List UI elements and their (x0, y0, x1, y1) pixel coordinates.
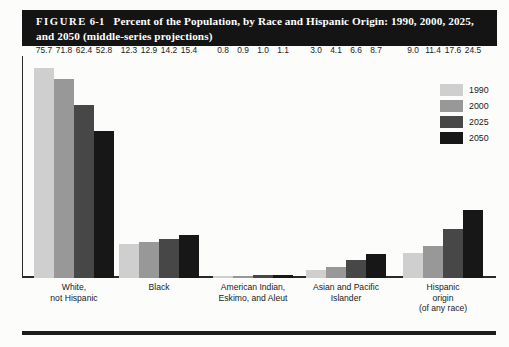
bar-2025-3[interactable]: 6.6 (346, 56, 366, 278)
bar-rect: 8.7 (366, 254, 386, 278)
bar-2050-1[interactable]: 15.4 (179, 56, 199, 278)
bar-rect: 9.0 (403, 253, 423, 278)
bar-value-label: 71.8 (56, 45, 72, 55)
bar-rect: 14.2 (159, 239, 179, 278)
bar-value-label: 9.0 (407, 45, 419, 55)
bar-rect: 17.6 (443, 229, 463, 278)
bar-rect: 6.6 (346, 260, 366, 278)
legend-swatch-2050 (440, 132, 463, 144)
chart-legend: 1990200020252050 (440, 82, 489, 146)
bar-value-label: 4.1 (330, 45, 342, 55)
figure-number: 6-1 (90, 16, 105, 27)
bar-2025-2[interactable]: 1.0 (253, 56, 273, 278)
legend-item-2050[interactable]: 2050 (440, 130, 489, 145)
bar-2025-1[interactable]: 14.2 (159, 56, 179, 278)
bar-group-3: 3.04.16.68.7 (306, 56, 386, 278)
category-label-line: Asian and Pacific (291, 282, 401, 293)
bar-value-label: 1.1 (277, 45, 289, 55)
bar-group-0: 75.771.862.452.8 (34, 56, 114, 278)
bar-2050-2[interactable]: 1.1 (273, 56, 293, 278)
bar-value-label: 12.9 (141, 45, 157, 55)
bar-rect: 0.8 (213, 276, 233, 278)
bar-2000-0[interactable]: 71.8 (54, 56, 74, 278)
bar-rect: 12.9 (139, 242, 159, 278)
legend-swatch-2025 (440, 116, 463, 128)
legend-item-1990[interactable]: 1990 (440, 82, 489, 97)
legend-swatch-1990 (440, 84, 463, 96)
bar-value-label: 75.7 (36, 45, 52, 55)
bar-rect: 1.1 (273, 275, 293, 278)
bar-value-label: 3.0 (310, 45, 322, 55)
bar-rect: 62.4 (74, 105, 94, 278)
bar-group-1: 12.312.914.215.4 (119, 56, 199, 278)
bar-value-label: 24.5 (465, 45, 481, 55)
legend-label-1990: 1990 (469, 85, 489, 95)
figure-bottom-rule (22, 331, 496, 335)
category-label-line: Islander (291, 293, 401, 304)
bar-2025-0[interactable]: 62.4 (74, 56, 94, 278)
bar-value-label: 14.2 (161, 45, 177, 55)
bar-1990-1[interactable]: 12.3 (119, 56, 139, 278)
plot-area: 75.771.862.452.812.312.914.215.40.80.91.… (22, 56, 497, 278)
bar-rect: 3.0 (306, 270, 326, 278)
category-label-3: Asian and PacificIslander (291, 282, 401, 303)
bar-1990-3[interactable]: 3.0 (306, 56, 326, 278)
bar-rect: 15.4 (179, 235, 199, 278)
bar-value-label: 52.8 (96, 45, 112, 55)
bar-1990-2[interactable]: 0.8 (213, 56, 233, 278)
bar-group-2: 0.80.91.01.1 (213, 56, 293, 278)
bar-rect: 11.4 (423, 246, 443, 278)
bar-value-label: 8.7 (370, 45, 382, 55)
category-label-line: Hispanic (388, 282, 498, 293)
bar-rect: 71.8 (54, 79, 74, 278)
bar-rect: 24.5 (463, 210, 483, 278)
figure-container: FIGURE 6-1Percent of the Population, by … (0, 0, 509, 347)
bar-value-label: 0.8 (217, 45, 229, 55)
bar-rect: 52.8 (94, 131, 114, 278)
bar-value-label: 12.3 (121, 45, 137, 55)
legend-item-2025[interactable]: 2025 (440, 114, 489, 129)
legend-label-2000: 2000 (469, 101, 489, 111)
figure-label: FIGURE (36, 16, 87, 27)
bar-2050-0[interactable]: 52.8 (94, 56, 114, 278)
bar-2000-1[interactable]: 12.9 (139, 56, 159, 278)
bar-value-label: 11.4 (425, 45, 441, 55)
bar-value-label: 15.4 (181, 45, 197, 55)
bar-rect: 0.9 (233, 276, 253, 278)
category-label-line: (of any race) (388, 303, 498, 314)
bar-value-label: 62.4 (76, 45, 92, 55)
bar-value-label: 17.6 (445, 45, 461, 55)
bar-2000-2[interactable]: 0.9 (233, 56, 253, 278)
bar-rect: 1.0 (253, 275, 273, 278)
legend-item-2000[interactable]: 2000 (440, 98, 489, 113)
bar-rect: 4.1 (326, 267, 346, 278)
bar-1990-0[interactable]: 75.7 (34, 56, 54, 278)
bar-value-label: 1.0 (257, 45, 269, 55)
legend-swatch-2000 (440, 100, 463, 112)
bar-2050-3[interactable]: 8.7 (366, 56, 386, 278)
figure-title-banner: FIGURE 6-1Percent of the Population, by … (22, 10, 497, 46)
bar-value-label: 0.9 (237, 45, 249, 55)
category-label-line: origin (388, 293, 498, 304)
category-label-4: Hispanicorigin(of any race) (388, 282, 498, 314)
legend-label-2025: 2025 (469, 117, 489, 127)
legend-label-2050: 2050 (469, 133, 489, 143)
bar-rect: 75.7 (34, 68, 54, 278)
category-label-line: not Hispanic (19, 293, 129, 304)
bar-1990-4[interactable]: 9.0 (403, 56, 423, 278)
bar-rect: 12.3 (119, 244, 139, 278)
bar-2000-3[interactable]: 4.1 (326, 56, 346, 278)
bar-value-label: 6.6 (350, 45, 362, 55)
figure-title: FIGURE 6-1Percent of the Population, by … (36, 14, 487, 44)
